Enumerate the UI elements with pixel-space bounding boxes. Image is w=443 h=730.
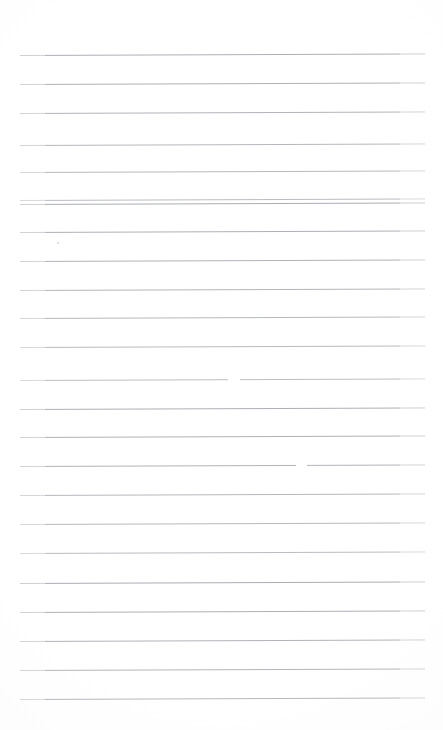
ruled-line [20,316,425,319]
ruled-line [20,143,425,146]
ruled-line [20,435,425,438]
ruled-line [20,259,425,262]
ruled-line [20,230,425,233]
ruled-line [20,464,425,467]
ruled-line [20,493,425,496]
ruled-line [20,581,425,584]
ruled-line [20,82,425,85]
speck-left-margin [57,242,59,244]
ruled-line [20,378,425,381]
ruled-line [20,198,425,201]
ruled-line [20,345,425,348]
ruled-line [20,111,425,114]
ruled-line [20,53,425,56]
paper-texture [0,0,443,730]
ruled-line [20,639,425,642]
ruled-line [20,522,425,525]
ruled-line [20,610,425,613]
scanned-page [0,0,443,730]
ruled-line [20,407,425,410]
ruled-line [20,551,425,554]
gap-lower [296,464,307,467]
ruled-line [20,202,425,205]
ruled-line [20,668,425,671]
ruled-line [20,170,425,173]
ruled-line [20,288,425,291]
gap-upper [228,378,240,381]
ruled-line [20,697,425,700]
